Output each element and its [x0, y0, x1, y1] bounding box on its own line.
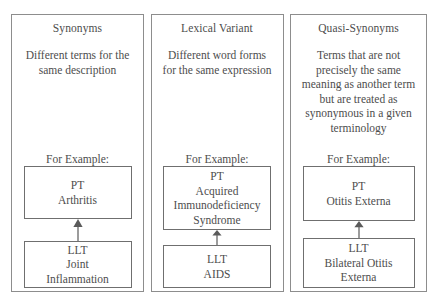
llt-term-line: Joint — [66, 257, 88, 272]
up-arrow-icon — [70, 219, 86, 241]
llt-term-line: Externa — [341, 270, 377, 285]
pt-term-line: Otitis Externa — [326, 194, 390, 209]
panel-synonyms: Synonyms Different terms for the same de… — [11, 14, 144, 292]
llt-term-box: LLT AIDS — [163, 245, 271, 288]
up-arrow-icon — [351, 221, 367, 238]
llt-type-label: LLT — [67, 243, 87, 258]
pt-term-line: Syndrome — [193, 213, 240, 228]
for-example-label: For Example: — [291, 153, 426, 166]
panel-description: Different word forms for the same expres… — [158, 48, 277, 77]
pt-term-box: PT Acquired Immunodeficiency Syndrome — [163, 166, 271, 230]
pt-type-label: PT — [71, 178, 84, 193]
llt-type-label: LLT — [348, 241, 368, 256]
panel-row: Synonyms Different terms for the same de… — [11, 14, 427, 292]
llt-term-line: AIDS — [204, 267, 231, 282]
llt-term-box: LLT Joint Inflammation — [24, 241, 132, 288]
arrow-zone — [291, 221, 426, 238]
up-arrow-icon — [209, 230, 225, 245]
pt-term-box: PT Arthritis — [24, 166, 132, 219]
for-example-label: For Example: — [152, 153, 283, 166]
llt-term-box: LLT Bilateral Otitis Externa — [303, 238, 415, 288]
panel-title: Synonyms — [53, 22, 102, 35]
example-box-group: PT Acquired Immunodeficiency Syndrome LL… — [152, 166, 283, 288]
pt-term-line: Acquired — [196, 184, 239, 199]
llt-type-label: LLT — [207, 252, 227, 267]
pt-type-label: PT — [352, 179, 365, 194]
panel-lexical-variant: Lexical Variant Different word forms for… — [151, 14, 284, 292]
arrow-zone — [12, 219, 143, 241]
panel-title: Lexical Variant — [181, 22, 253, 35]
pt-type-label: PT — [210, 169, 223, 184]
pt-term-line: Arthritis — [58, 193, 97, 208]
panel-title: Quasi-Synonyms — [318, 22, 399, 35]
llt-term-line: Bilateral Otitis — [324, 256, 392, 271]
synonym-types-diagram: Synonyms Different terms for the same de… — [0, 0, 438, 308]
example-box-group: PT Otitis Externa LLT Bilateral Otitis E… — [291, 166, 426, 288]
pt-term-box: PT Otitis Externa — [303, 166, 415, 221]
for-example-label: For Example: — [12, 153, 143, 166]
panel-quasi-synonyms: Quasi-Synonyms Terms that are not precis… — [290, 14, 427, 292]
arrow-zone — [152, 230, 283, 245]
panel-description: Different terms for the same description — [18, 48, 137, 77]
llt-term-line: Inflammation — [46, 272, 109, 287]
pt-term-line: Immunodeficiency — [174, 198, 261, 213]
panel-description: Terms that are not precisely the same me… — [297, 48, 420, 135]
example-box-group: PT Arthritis LLT Joint Inflammation — [12, 166, 143, 288]
